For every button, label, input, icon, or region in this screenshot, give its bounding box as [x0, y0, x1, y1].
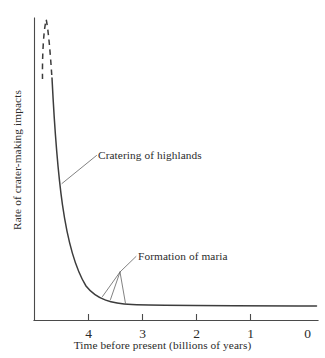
annotation-formation-of-maria: Formation of maria	[138, 250, 228, 262]
leader-line-maria-mid-leg	[111, 272, 121, 300]
annotation-cratering-of-highlands: Cratering of highlands	[98, 149, 202, 161]
y-axis-title-text: Rate of crater-making impacts	[11, 90, 23, 230]
cratering-curve-dashed-peak	[42, 20, 52, 80]
y-axis-title: Rate of crater-making impacts	[9, 0, 25, 320]
x-axis-title: Time before present (billions of years)	[0, 339, 325, 351]
leader-line-maria-stem	[120, 257, 136, 273]
leader-line-highlands	[62, 156, 97, 184]
cratering-curve-solid	[52, 78, 317, 306]
leader-line-maria-left-leg	[103, 272, 121, 297]
leader-line-maria-right-leg	[120, 272, 126, 304]
chart-plot-area: 4 3 2 1 0	[0, 0, 325, 358]
chart-figure: 4 3 2 1 0 Rate of crater-making impacts …	[0, 0, 325, 358]
